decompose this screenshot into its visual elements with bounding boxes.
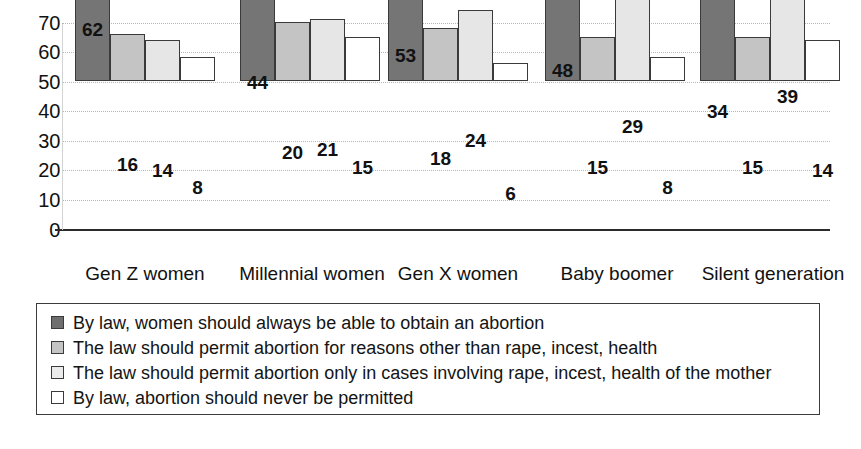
legend-label-1: The law should permit abortion for reaso… (73, 338, 657, 358)
x-label-silent-generation-line1: Silent generation (702, 263, 845, 284)
bar-value-g3-s1: 15 (580, 158, 615, 177)
bar-g3-s2[interactable] (615, 0, 650, 81)
legend-item-1[interactable]: The law should permit abortion for reaso… (37, 335, 819, 360)
legend-item-0[interactable]: By law, women should always be able to o… (37, 310, 819, 335)
x-label-gen-z-line1: Gen Z women (85, 263, 204, 284)
plot-area: 70 60 50 40 30 20 10 0 62 16 14 (0, 0, 861, 300)
legend-label-0: By law, women should always be able to o… (73, 313, 544, 333)
bar-value-g0-s3: 8 (180, 178, 215, 197)
x-label-millennial-line1: Millennial women (239, 263, 385, 284)
bar-g4-s3[interactable] (805, 40, 840, 81)
bar-g4-s0[interactable] (700, 0, 735, 81)
legend-label-3: By law, abortion should never be permitt… (73, 388, 413, 408)
chart-legend: By law, women should always be able to o… (36, 303, 820, 415)
bar-g1-s1[interactable] (275, 22, 310, 81)
bar-value-g3-s3: 8 (650, 178, 685, 197)
bar-value-g1-s2: 21 (310, 140, 345, 159)
bar-g1-s0[interactable] (240, 0, 275, 81)
bar-value-g1-s3: 15 (345, 158, 380, 177)
bar-g0-s1[interactable] (110, 34, 145, 81)
bar-value-g0-s2: 14 (145, 161, 180, 180)
bar-value-g0-s0: 62 (75, 20, 110, 39)
bar-value-g1-s0: 44 (240, 73, 275, 92)
x-label-gen-x-line1: Gen X women (398, 263, 518, 284)
bar-value-g1-s1: 20 (275, 143, 310, 162)
bar-g2-s1[interactable] (423, 28, 458, 81)
x-label-baby-boomer-line1: Baby boomer (560, 263, 673, 284)
bar-value-g3-s0: 48 (545, 61, 580, 80)
bar-value-g0-s1: 16 (110, 155, 145, 174)
bar-value-g2-s0: 53 (388, 46, 423, 65)
bar-g0-s3[interactable] (180, 57, 215, 81)
bar-g0-s0[interactable] (75, 0, 110, 81)
bar-value-g4-s1: 15 (735, 158, 770, 177)
bar-g2-s0[interactable] (388, 0, 423, 81)
bar-g0-s2[interactable] (145, 40, 180, 81)
bar-g2-s2[interactable] (458, 10, 493, 81)
bar-value-g4-s0: 34 (700, 102, 735, 121)
bar-value-g3-s2: 29 (615, 117, 650, 136)
bar-g1-s3[interactable] (345, 37, 380, 81)
bar-g3-s1[interactable] (580, 37, 615, 81)
chart-page: 70 60 50 40 30 20 10 0 62 16 14 (0, 0, 861, 449)
x-label-gen-x: Gen X women (378, 241, 538, 285)
bar-value-g4-s2: 39 (770, 87, 805, 106)
legend-swatch-dark-gray-icon (51, 316, 64, 329)
bar-g3-s3[interactable] (650, 57, 685, 81)
legend-swatch-medium-gray-icon (51, 341, 64, 354)
bar-value-g2-s1: 18 (423, 149, 458, 168)
legend-swatch-light-gray-icon (51, 366, 64, 379)
legend-item-3[interactable]: By law, abortion should never be permitt… (37, 385, 819, 410)
legend-item-2[interactable]: The law should permit abortion only in c… (37, 360, 819, 385)
bar-value-g2-s2: 24 (458, 131, 493, 150)
legend-swatch-white-icon (51, 391, 64, 404)
x-label-gen-z: Gen Z women (60, 241, 230, 285)
bar-g4-s2[interactable] (770, 0, 805, 81)
bar-value-g4-s3: 14 (805, 161, 840, 180)
bar-value-g2-s3: 6 (493, 184, 528, 203)
bar-g4-s1[interactable] (735, 37, 770, 81)
x-label-millennial: Millennial women (222, 241, 402, 285)
bar-g2-s3[interactable] (493, 63, 528, 81)
legend-label-2: The law should permit abortion only in c… (73, 363, 771, 383)
bar-g1-s2[interactable] (310, 19, 345, 81)
